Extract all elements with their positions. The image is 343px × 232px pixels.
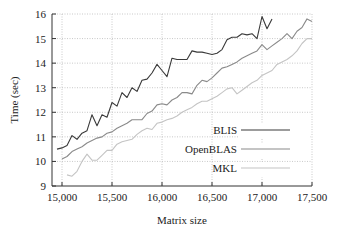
x-tick-label: 16,000 <box>147 191 178 203</box>
x-tick-label: 15,000 <box>47 191 78 203</box>
x-tick-label: 16,500 <box>197 191 228 203</box>
line-chart: 91011121314151615,00015,50016,00016,5001… <box>0 0 343 232</box>
y-axis-title: Time (sec) <box>8 76 21 123</box>
x-tick-label: 17,000 <box>247 191 278 203</box>
y-tick-label: 12 <box>35 106 46 118</box>
grid-lines <box>52 14 312 186</box>
legend-label-openblas: OpenBLAS <box>185 143 237 155</box>
legend-background <box>238 143 310 158</box>
y-tick-label: 14 <box>35 57 47 69</box>
legend-background <box>238 124 310 139</box>
axes <box>52 14 312 186</box>
y-tick-label: 10 <box>35 155 47 167</box>
x-tick-label: 17,500 <box>297 191 328 203</box>
legend-background <box>238 162 310 177</box>
x-axis-title: Matrix size <box>157 214 207 226</box>
legend-label-mkl: MKL <box>213 162 238 174</box>
y-tick-label: 15 <box>35 33 47 45</box>
y-tick-label: 11 <box>35 131 46 143</box>
y-tick-label: 13 <box>35 82 47 94</box>
legend-label-blis: BLIS <box>213 124 237 136</box>
y-tick-label: 9 <box>41 180 47 192</box>
x-tick-label: 15,500 <box>97 191 128 203</box>
y-tick-label: 16 <box>35 8 47 20</box>
legend: BLISOpenBLASMKL <box>185 124 310 177</box>
